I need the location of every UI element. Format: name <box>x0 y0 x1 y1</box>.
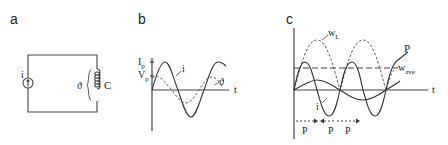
element-label: C <box>104 79 111 91</box>
ip-label: Ip <box>138 56 145 70</box>
current-leader-line <box>322 98 327 103</box>
period-label-3: P <box>345 125 351 136</box>
vp-label: Vp <box>138 69 149 83</box>
voltage-label: ϑ <box>77 80 82 91</box>
energy-label: wL <box>328 27 340 41</box>
panel-b-label: b <box>138 11 146 27</box>
voltage-brace-icon <box>87 70 91 100</box>
voltage-curve-label: ϑ <box>219 76 224 87</box>
period-label-2: P <box>328 125 334 136</box>
t-axis-label: t <box>432 84 435 95</box>
figure: a i ϑ C b Ip Vp <box>0 0 448 145</box>
current-label: i <box>182 63 185 74</box>
source-current-label: i <box>21 69 24 80</box>
current-leader-line <box>176 71 181 76</box>
panel-a-label: a <box>10 11 18 27</box>
circuit-wire <box>28 55 97 112</box>
coil-icon <box>95 69 100 89</box>
average-energy-label: wave <box>398 62 415 76</box>
period-label-1: P <box>302 125 308 136</box>
panel-c: c t wL P wave i P P P <box>286 11 435 139</box>
panel-b: b Ip Vp i ϑ t <box>138 11 237 131</box>
t-axis-label: t <box>234 84 237 95</box>
power-label: P <box>404 42 410 54</box>
current-label: i <box>316 101 319 112</box>
current-source-icon <box>23 78 33 88</box>
power-curve <box>294 52 408 116</box>
panel-a: a i ϑ C <box>10 11 111 112</box>
period-arrows <box>296 119 360 124</box>
panel-c-label: c <box>286 11 293 27</box>
